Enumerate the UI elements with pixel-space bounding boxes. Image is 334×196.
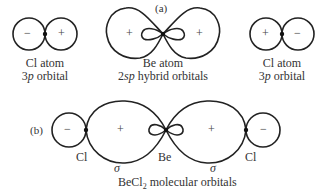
- nucleus-dot: [280, 32, 284, 36]
- cl-left-caption: Cl atom 3p orbital: [13, 57, 77, 83]
- nucleus-dot: [43, 32, 47, 36]
- caption-line2: 3p orbital: [13, 70, 77, 83]
- label-sigma-right: σ: [210, 162, 216, 175]
- be-left-large-lobe: [106, 8, 163, 58]
- b-left-sigma-lobe: [86, 101, 166, 163]
- cl-right-caption: Cl atom 3p orbital: [250, 57, 314, 83]
- sign-plus: +: [58, 26, 65, 41]
- sign-minus: −: [64, 122, 71, 137]
- sign-plus: +: [117, 122, 124, 137]
- caption-line2: 2sp hybrid orbitals: [113, 70, 213, 83]
- nucleus-dot: [84, 128, 88, 132]
- panel-b-label: (b): [30, 124, 43, 137]
- label-cl-right: Cl: [245, 151, 256, 164]
- sign-plus: +: [262, 26, 269, 41]
- caption-line2: 3p orbital: [250, 70, 314, 83]
- sign-minus: −: [24, 26, 31, 41]
- nucleus-dot: [161, 32, 165, 36]
- label-be: Be: [158, 151, 171, 164]
- panel-a-label: (a): [155, 2, 167, 15]
- b-right-sigma-lobe: [166, 101, 246, 163]
- nucleus-dot: [164, 128, 168, 132]
- sign-plus: +: [196, 26, 203, 41]
- be-caption: Be atom 2sp hybrid orbitals: [113, 57, 213, 83]
- sign-plus: +: [126, 26, 133, 41]
- nucleus-dot: [244, 128, 248, 132]
- be-right-large-lobe: [163, 8, 220, 58]
- orbital-diagram: [0, 0, 334, 196]
- becl2-caption: BeCl2 molecular orbitals: [118, 176, 237, 193]
- sign-minus: −: [260, 122, 267, 137]
- sign-minus: −: [294, 26, 301, 41]
- label-sigma-left: σ: [114, 162, 120, 175]
- label-cl-left: Cl: [76, 151, 87, 164]
- sign-plus: +: [208, 122, 215, 137]
